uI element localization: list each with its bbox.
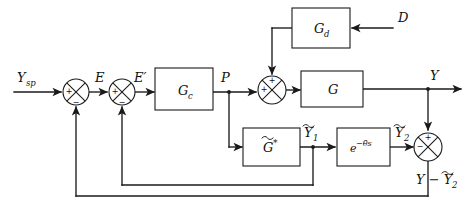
block-gd-label: G bbox=[314, 21, 324, 36]
signal-label-p: P bbox=[220, 70, 230, 85]
signal-label-e: E bbox=[94, 70, 105, 85]
sum1-sign-left: + bbox=[66, 87, 73, 96]
block-delay-exponent: −θ̄s bbox=[356, 139, 372, 148]
junction-dot-p bbox=[227, 90, 231, 94]
signal-label-d: D bbox=[397, 10, 409, 25]
block-gc-label: G bbox=[178, 83, 188, 98]
signal-ydiff-subscript: 2 bbox=[451, 180, 457, 190]
block-gstar-asterisk: * bbox=[273, 138, 278, 148]
signal-label-y2-tilde: Y 2 bbox=[394, 125, 409, 144]
summing-junction-1[interactable]: + − bbox=[63, 79, 89, 107]
block-g-label: G bbox=[328, 82, 338, 97]
block-diagram-canvas: G c G d G G * e −θ̄s + − + − bbox=[0, 0, 466, 209]
diagram-svg: G c G d G G * e −θ̄s + − + − bbox=[0, 0, 466, 209]
sum2-sign-bottom: − bbox=[119, 98, 126, 107]
signal-label-ysp: Y sp bbox=[17, 70, 36, 88]
signal-label-y: Y bbox=[430, 68, 440, 83]
summing-junction-3[interactable]: + + bbox=[258, 76, 286, 104]
signal-label-y1-tilde: Y 1 bbox=[303, 125, 318, 144]
block-gd-subscript: d bbox=[324, 29, 330, 39]
junction-dot-y bbox=[426, 87, 430, 91]
signal-y1-subscript: 1 bbox=[313, 133, 318, 143]
signal-ydiff-base: Y − Y bbox=[416, 172, 454, 187]
block-gstar-label: G bbox=[263, 140, 273, 155]
sum3-sign-top: + bbox=[269, 76, 276, 85]
signal-label-y-minus-y2: Y − Y 2 bbox=[416, 172, 457, 191]
sum4-sign-top: + bbox=[425, 133, 432, 142]
sum4-sign-left: − bbox=[417, 142, 424, 151]
sum1-sign-bottom: − bbox=[73, 98, 80, 107]
signal-label-eprime: E′ bbox=[133, 70, 146, 85]
summing-junction-2[interactable]: + − bbox=[109, 79, 135, 107]
summing-junction-4[interactable]: − + bbox=[414, 133, 442, 161]
signal-y2-subscript: 2 bbox=[403, 133, 409, 143]
block-gc-subscript: c bbox=[188, 91, 193, 101]
signal-ysp-subscript: sp bbox=[26, 78, 36, 88]
sum3-sign-left: + bbox=[261, 85, 268, 94]
sum2-sign-left: + bbox=[112, 87, 119, 96]
